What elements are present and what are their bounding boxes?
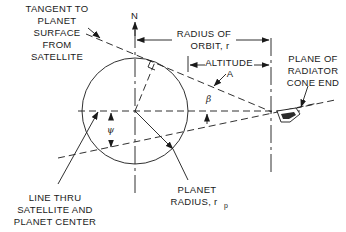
svg-text:CONE END: CONE END xyxy=(287,77,340,88)
svg-text:ORBIT, r: ORBIT, r xyxy=(191,40,230,51)
tangent-line xyxy=(86,34,272,112)
svg-text:PLANE OF: PLANE OF xyxy=(288,53,337,64)
plane-of-radiator-label: PLANE OF RADIATOR CONE END xyxy=(287,53,340,88)
tangent-label: TANGENT TO PLANET SURFACE FROM SATELLITE xyxy=(25,3,88,62)
svg-text:PLANET: PLANET xyxy=(38,15,77,26)
tangent-leader xyxy=(88,28,100,38)
altitude-label: ALTITUDE A xyxy=(205,57,253,79)
svg-text:PLANET CENTER: PLANET CENTER xyxy=(14,216,96,227)
svg-text:RADIUS OF: RADIUS OF xyxy=(177,28,231,39)
radiator-leader xyxy=(301,86,308,107)
svg-text:FROM: FROM xyxy=(42,39,71,50)
planet-radius-leader xyxy=(173,149,188,180)
satellite-radiator xyxy=(277,108,300,122)
svg-text:p: p xyxy=(224,202,228,210)
north-label: N xyxy=(131,10,138,21)
orbit-geometry-diagram: N ψ β TANGENT TO PLANET SURFACE xyxy=(0,0,346,232)
svg-text:LINE THRU: LINE THRU xyxy=(29,192,82,203)
planet-radius-label: PLANET RADIUS, r p xyxy=(170,184,228,210)
svg-text:SATELLITE AND: SATELLITE AND xyxy=(17,204,93,215)
altitude-leader xyxy=(214,74,226,86)
planet-radius-line xyxy=(135,111,173,149)
svg-text:SATELLITE: SATELLITE xyxy=(31,51,83,62)
svg-text:A: A xyxy=(227,68,234,79)
svg-text:SURFACE: SURFACE xyxy=(34,27,81,38)
svg-text:ALTITUDE: ALTITUDE xyxy=(205,57,253,68)
svg-text:RADIATOR: RADIATOR xyxy=(288,65,339,76)
radius-of-orbit-label: RADIUS OF ORBIT, r xyxy=(177,28,231,51)
beta-label: β xyxy=(205,94,211,104)
svg-text:TANGENT TO: TANGENT TO xyxy=(25,3,88,14)
line-thru-label: LINE THRU SATELLITE AND PLANET CENTER xyxy=(14,192,96,227)
svg-text:RADIUS, r: RADIUS, r xyxy=(170,196,217,207)
svg-text:PLANET: PLANET xyxy=(178,184,217,195)
radius-to-tangent-point xyxy=(135,62,155,111)
psi-label: ψ xyxy=(107,125,115,135)
line-thru-leader xyxy=(58,112,98,184)
